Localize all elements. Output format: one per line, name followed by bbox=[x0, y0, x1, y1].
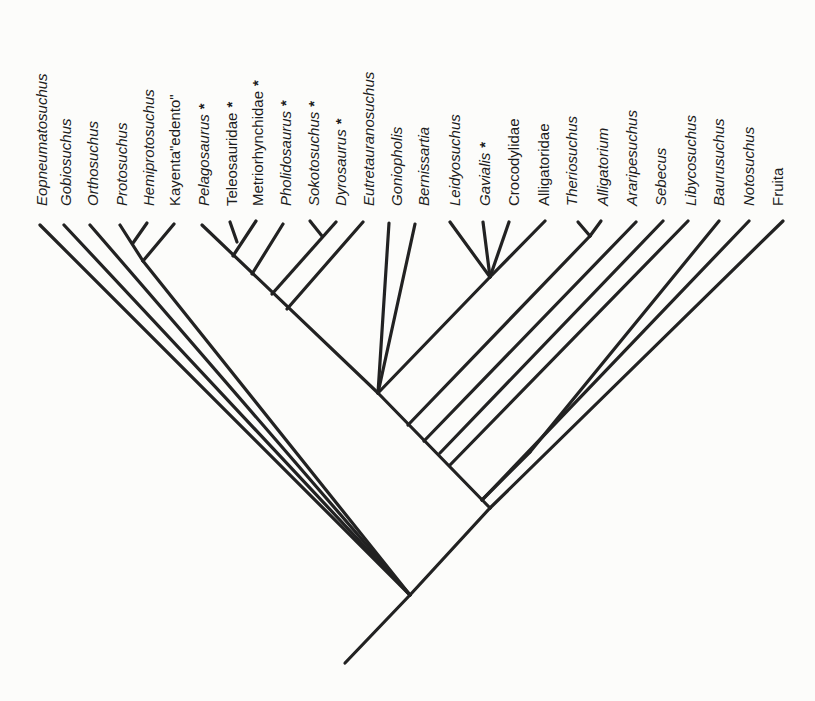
eopneumatosuchus-branch bbox=[40, 225, 410, 595]
taxon-label-goniopholis: Goniopholis bbox=[389, 127, 404, 206]
taxon-name: Theriosuchus bbox=[563, 116, 580, 206]
taxon-name: Libycosuchus bbox=[682, 115, 699, 206]
taxon-name: Teleosauridae bbox=[223, 113, 240, 206]
taxon-label-hemiprotosuchus: Hemiprotosuchus bbox=[141, 89, 156, 206]
cladogram-tree bbox=[0, 0, 815, 701]
protosuchid-clade-branch bbox=[143, 261, 410, 595]
taxon-name: Hemiprotosuchus bbox=[140, 89, 157, 206]
dyrosaurus-branch bbox=[272, 222, 336, 294]
kayenta-branch bbox=[143, 224, 174, 261]
taxon-name: Alligatoridae bbox=[535, 123, 552, 206]
crocodylia-branch bbox=[378, 277, 490, 393]
taxon-label-fruita: Fruita bbox=[770, 168, 785, 206]
asterisk-marker-icon: * bbox=[305, 101, 322, 107]
araripesuchus-branch bbox=[424, 222, 636, 441]
taxon-name: Alligatorium bbox=[594, 128, 611, 206]
taxon-label-metriorhynchidae: Metriorhynchidae* bbox=[250, 80, 265, 206]
mesoeucrocodylia-branch bbox=[410, 508, 490, 595]
taxon-label-libycosuchus: Libycosuchus bbox=[683, 115, 698, 206]
taxon-name: Baurusuchus bbox=[710, 118, 727, 206]
taxon-label-sokotosuchus: Sokotosuchus* bbox=[306, 101, 321, 206]
hemiprotosuchus-branch bbox=[133, 223, 147, 243]
baurusuchus-branch bbox=[530, 221, 719, 452]
taxon-name: Eutretauranosuchus bbox=[360, 72, 377, 206]
asterisk-marker-icon: * bbox=[249, 80, 266, 86]
taxon-label-gavialis: Gavialis* bbox=[477, 142, 492, 206]
cladogram-figure: EopneumatosuchusGobiosuchusOrthosuchusPr… bbox=[0, 0, 815, 701]
taxon-name: Araripesuchus bbox=[623, 110, 640, 206]
asterisk-marker-icon: * bbox=[223, 102, 240, 108]
fruita-branch bbox=[490, 221, 783, 508]
taxon-label-sebecus: Sebecus bbox=[653, 148, 668, 206]
gobiosuchus-branch bbox=[64, 225, 410, 595]
taxon-label-baurusuchus: Baurusuchus bbox=[711, 118, 726, 206]
taxon-label-dyrosaurus: Dyrosaurus* bbox=[333, 118, 348, 206]
taxon-name: Gobiosuchus bbox=[57, 118, 74, 206]
orthosuchus-branch bbox=[90, 225, 410, 595]
alligatorium-clade-branch bbox=[408, 236, 590, 425]
taxon-label-gobiosuchus: Gobiosuchus bbox=[58, 118, 73, 206]
taxon-name: Gavialis bbox=[476, 153, 493, 206]
root-stem bbox=[345, 595, 410, 663]
taxon-label-kayenta-edento: Kayenta"edento" bbox=[167, 94, 182, 206]
taxon-name: Leidyosuchus bbox=[446, 114, 463, 206]
taxon-name: Goniopholis bbox=[388, 127, 405, 206]
taxon-label-bernissartia: Bernissartia bbox=[416, 127, 431, 206]
alligatorium-branch bbox=[590, 221, 601, 236]
taxon-label-alligatorium: Alligatorium bbox=[595, 128, 610, 206]
taxon-name: Protosuchus bbox=[113, 123, 130, 206]
taxon-label-eutretauranosuchus: Eutretauranosuchus bbox=[361, 72, 376, 206]
asterisk-marker-icon: * bbox=[277, 100, 294, 106]
taxon-name: Metriorhynchidae bbox=[249, 91, 266, 206]
taxon-label-crocodylidae: Crocodylidae bbox=[506, 118, 521, 206]
taxon-name: Sokotosuchus bbox=[305, 112, 322, 206]
taxon-name: Pelagosaurus bbox=[195, 114, 212, 206]
taxon-label-araripesuchus: Araripesuchus bbox=[624, 110, 639, 206]
sokotosuchus-branch bbox=[310, 221, 322, 236]
taxon-label-notosuchus: Notosuchus bbox=[741, 127, 756, 206]
taxon-label-leidyosuchus: Leidyosuchus bbox=[447, 114, 462, 206]
taxon-label-eopneumatosuchus: Eopneumatosuchus bbox=[34, 73, 49, 206]
taxon-name: Kayenta"edento" bbox=[166, 94, 183, 206]
asterisk-marker-icon: * bbox=[332, 118, 349, 124]
taxon-name: Fruita bbox=[769, 168, 786, 206]
taxon-name: Crocodylidae bbox=[505, 118, 522, 206]
asterisk-marker-icon: * bbox=[476, 142, 493, 148]
taxon-label-theriosuchus: Theriosuchus bbox=[564, 116, 579, 206]
teleosauridae-branch bbox=[230, 222, 237, 242]
theriosuchus-branch bbox=[578, 222, 590, 236]
taxon-label-orthosuchus: Orthosuchus bbox=[85, 121, 100, 206]
taxon-label-pholidosaurus: Pholidosaurus* bbox=[278, 100, 293, 206]
asterisk-marker-icon: * bbox=[195, 103, 212, 109]
taxon-name: Eopneumatosuchus bbox=[33, 73, 50, 206]
spine-upper bbox=[378, 393, 490, 508]
taxon-name: Bernissartia bbox=[415, 127, 432, 206]
taxon-name: Pholidosaurus bbox=[277, 111, 294, 206]
taxon-name: Sebecus bbox=[652, 148, 669, 206]
taxon-name: Orthosuchus bbox=[84, 121, 101, 206]
taxon-label-alligatoridae: Alligatoridae bbox=[536, 123, 551, 206]
taxon-label-teleosauridae: Teleosauridae* bbox=[224, 102, 239, 206]
taxon-name: Notosuchus bbox=[740, 127, 757, 206]
taxon-label-pelagosaurus: Pelagosaurus* bbox=[196, 103, 211, 206]
taxon-name: Dyrosaurus bbox=[332, 129, 349, 206]
taxon-label-protosuchus: Protosuchus bbox=[114, 123, 129, 206]
pholidosaurus-branch bbox=[252, 224, 283, 274]
